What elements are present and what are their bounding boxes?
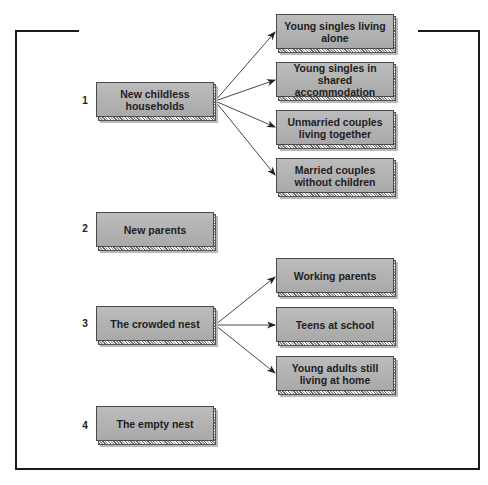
- stage-number-3: 3: [79, 318, 91, 329]
- stage-label-1: New childless households: [96, 82, 214, 117]
- stage-box-1: New childless households: [96, 82, 218, 123]
- stage1-child-box-1: Young singles living alone: [276, 14, 398, 55]
- arrow-stage1-child4: [215, 101, 275, 175]
- stage-box-4: The empty nest: [96, 406, 218, 447]
- stage1-child-label-4: Married couples without children: [276, 158, 394, 193]
- arrow-stage1-child3: [215, 101, 275, 127]
- stage-number-2: 2: [79, 223, 91, 234]
- arrow-stage3-child1: [215, 277, 275, 325]
- stage-label-4: The empty nest: [96, 406, 214, 441]
- stage1-child-box-4: Married couples without children: [276, 158, 398, 199]
- stage3-child-label-3: Young adults still living at home: [276, 356, 394, 391]
- stage-label-2: New parents: [96, 212, 214, 247]
- arrow-stage3-child3: [215, 325, 275, 373]
- stage1-child-label-1: Young singles living alone: [276, 14, 394, 49]
- stage3-child-label-1: Working parents: [276, 258, 394, 293]
- stage3-child-box-2: Teens at school: [276, 307, 398, 348]
- stage1-child-label-3: Unmarried couples living together: [276, 110, 394, 145]
- stage-box-2: New parents: [96, 212, 218, 253]
- stage1-child-box-3: Unmarried couples living together: [276, 110, 398, 151]
- stage-number-4: 4: [79, 420, 91, 431]
- stage3-child-box-3: Young adults still living at home: [276, 356, 398, 397]
- stage-label-3: The crowded nest: [96, 306, 214, 341]
- stage-number-1: 1: [79, 95, 91, 106]
- stage-box-3: The crowded nest: [96, 306, 218, 347]
- arrows-layer: [0, 0, 488, 485]
- stage1-child-box-2: Young singles in shared accommodation: [276, 62, 398, 103]
- stage3-child-label-2: Teens at school: [276, 307, 394, 342]
- stage1-child-label-2: Young singles in shared accommodation: [276, 62, 394, 97]
- stage3-child-box-1: Working parents: [276, 258, 398, 299]
